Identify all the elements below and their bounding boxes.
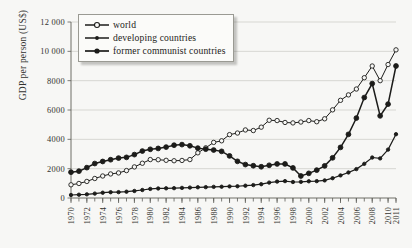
data-point xyxy=(362,76,366,80)
data-point xyxy=(378,113,383,118)
data-point xyxy=(77,181,81,185)
data-point xyxy=(291,166,296,171)
data-point xyxy=(211,140,215,144)
legend-label-former-communist-countries: former communist countries xyxy=(113,45,226,56)
data-point xyxy=(116,156,121,161)
svg-text:1974: 1974 xyxy=(99,207,108,224)
data-point xyxy=(77,193,80,196)
series-layer xyxy=(69,48,399,197)
data-point xyxy=(244,184,247,187)
svg-text:1988: 1988 xyxy=(210,207,219,224)
svg-text:2002: 2002 xyxy=(321,207,330,224)
data-point xyxy=(330,108,334,112)
data-point xyxy=(157,187,160,190)
data-point xyxy=(299,180,302,183)
data-point xyxy=(315,179,318,182)
x-axis-ticks: 1970197219741976197819801982198419861988… xyxy=(67,198,401,224)
data-point xyxy=(283,162,288,167)
data-point xyxy=(339,174,342,177)
svg-text:1986: 1986 xyxy=(194,207,203,224)
data-point xyxy=(93,176,97,180)
data-point xyxy=(156,146,161,151)
svg-text:1982: 1982 xyxy=(162,207,171,224)
data-point xyxy=(394,48,398,52)
data-point xyxy=(298,174,303,179)
data-point xyxy=(251,163,256,168)
svg-text:4000: 4000 xyxy=(47,135,65,144)
data-point xyxy=(291,180,294,183)
data-point xyxy=(211,148,216,153)
data-point xyxy=(203,147,208,152)
data-point xyxy=(188,143,193,148)
data-point xyxy=(275,162,280,167)
data-point xyxy=(386,148,389,151)
legend-item-developing-countries: developing countries xyxy=(84,31,226,44)
data-point xyxy=(267,118,271,122)
data-point xyxy=(291,121,295,125)
data-point xyxy=(219,139,223,143)
data-point xyxy=(124,155,129,160)
svg-text:1990: 1990 xyxy=(226,207,235,224)
svg-text:1994: 1994 xyxy=(257,207,266,224)
data-point xyxy=(180,158,184,162)
data-point xyxy=(283,120,287,124)
data-point xyxy=(164,187,167,190)
data-point xyxy=(100,159,105,164)
data-point xyxy=(164,145,169,150)
data-point xyxy=(355,167,358,170)
data-point xyxy=(69,170,74,175)
data-point xyxy=(243,128,247,132)
data-point xyxy=(156,158,160,162)
data-point xyxy=(116,171,120,175)
data-point xyxy=(243,162,248,167)
data-point xyxy=(386,62,390,66)
data-point xyxy=(307,180,310,183)
data-point xyxy=(164,158,168,162)
data-point xyxy=(306,171,311,176)
data-point xyxy=(370,81,375,86)
svg-text:10 000: 10 000 xyxy=(40,47,65,56)
svg-text:1996: 1996 xyxy=(273,207,282,224)
data-point xyxy=(251,128,255,132)
data-point xyxy=(92,161,97,166)
data-point xyxy=(140,149,145,154)
data-point xyxy=(315,120,319,124)
data-point xyxy=(354,87,358,91)
data-point xyxy=(275,118,279,122)
data-point xyxy=(125,190,128,193)
data-point xyxy=(363,162,366,165)
data-point xyxy=(172,159,176,163)
data-point xyxy=(93,192,96,195)
data-point xyxy=(124,168,128,172)
data-point xyxy=(322,163,327,168)
svg-text:2006: 2006 xyxy=(353,207,362,224)
data-point xyxy=(196,151,200,155)
data-point xyxy=(235,131,239,135)
legend-marker-filled-circle-icon xyxy=(84,45,110,57)
data-point xyxy=(227,132,231,136)
data-point xyxy=(346,93,350,97)
legend-label-developing-countries: developing countries xyxy=(113,32,196,43)
data-point xyxy=(235,159,240,164)
data-point xyxy=(362,95,367,100)
data-point xyxy=(394,133,397,136)
svg-text:2000: 2000 xyxy=(305,207,314,224)
svg-text:1992: 1992 xyxy=(242,207,251,224)
data-point xyxy=(69,183,73,187)
svg-text:2011: 2011 xyxy=(392,207,401,224)
svg-text:1970: 1970 xyxy=(67,207,76,224)
chart-legend: world developing countries former commun… xyxy=(78,14,234,62)
data-point xyxy=(275,180,278,183)
data-point xyxy=(108,172,112,176)
data-point xyxy=(252,183,255,186)
data-point xyxy=(204,185,207,188)
data-point xyxy=(228,185,231,188)
data-point xyxy=(386,102,391,107)
data-point xyxy=(188,186,191,189)
svg-text:1980: 1980 xyxy=(146,207,155,224)
data-point xyxy=(101,174,105,178)
data-point xyxy=(85,179,89,183)
data-point xyxy=(260,183,263,186)
data-point xyxy=(180,142,185,147)
data-point xyxy=(378,157,381,160)
